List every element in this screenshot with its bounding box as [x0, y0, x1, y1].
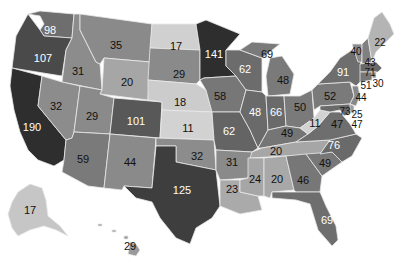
- label-new-mexico: 44: [124, 156, 136, 168]
- label-north-carolina: 76: [328, 139, 340, 151]
- label-nevada: 32: [50, 100, 62, 112]
- label-alabama: 20: [271, 173, 283, 185]
- label-hawaii: 29: [124, 240, 136, 252]
- label-kentucky: 49: [281, 127, 293, 139]
- label-utah: 29: [86, 110, 98, 122]
- us-choropleth-map: 98 107 190 31 32 35 20 29 59 101 44 17 2…: [0, 0, 405, 264]
- label-new-york: 91: [337, 66, 349, 78]
- label-tennessee: 20: [270, 145, 282, 157]
- label-washington: 98: [44, 24, 56, 36]
- label-dc: 47: [351, 119, 363, 130]
- label-rhode-island: 30: [372, 78, 384, 89]
- label-arizona: 59: [77, 153, 89, 165]
- label-pennsylvania: 52: [324, 90, 336, 102]
- label-connecticut: 51: [360, 80, 372, 91]
- label-texas: 125: [173, 184, 191, 196]
- label-oregon: 107: [34, 52, 52, 64]
- label-mississippi: 24: [249, 173, 261, 185]
- label-ohio: 50: [294, 101, 306, 113]
- state-alaska[interactable]: [8, 184, 68, 236]
- label-georgia: 46: [297, 174, 309, 186]
- label-wisconsin: 62: [239, 63, 251, 75]
- label-california: 190: [23, 121, 41, 133]
- label-colorado: 101: [127, 115, 145, 127]
- label-michigan: 48: [277, 74, 289, 86]
- label-oklahoma: 32: [191, 150, 203, 162]
- label-west-virginia: 11: [309, 117, 320, 129]
- label-maryland: 73: [339, 106, 351, 117]
- state-hawaii-islet-1: [98, 224, 102, 226]
- label-arkansas: 31: [226, 156, 238, 168]
- label-alaska: 17: [24, 204, 36, 216]
- label-new-jersey: 44: [355, 92, 367, 103]
- label-illinois: 48: [249, 106, 261, 118]
- label-kansas: 11: [182, 122, 193, 134]
- label-missouri: 62: [223, 125, 235, 137]
- label-michigan-upper: 69: [261, 48, 273, 60]
- state-hawaii-islet-2: [112, 230, 116, 232]
- label-south-carolina: 49: [319, 157, 331, 169]
- label-florida: 69: [321, 214, 333, 226]
- label-massachusetts: 71: [364, 67, 376, 78]
- label-louisiana: 23: [226, 183, 238, 195]
- label-montana: 35: [110, 39, 122, 51]
- label-nebraska: 18: [174, 96, 186, 108]
- label-idaho: 31: [72, 65, 84, 77]
- label-north-dakota: 17: [170, 40, 182, 52]
- label-iowa: 58: [214, 90, 226, 102]
- label-maine: 22: [374, 37, 386, 48]
- label-virginia: 47: [331, 118, 343, 130]
- label-south-dakota: 29: [173, 68, 185, 80]
- state-hawaii-islet-3: [124, 236, 128, 239]
- label-vermont: 40: [350, 46, 362, 57]
- label-wyoming: 20: [121, 76, 133, 88]
- label-minnesota: 141: [205, 48, 223, 60]
- label-indiana: 66: [270, 106, 282, 118]
